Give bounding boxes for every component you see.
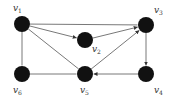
node-v1	[14, 16, 30, 32]
node-v2	[77, 32, 93, 48]
node-label-v3: v3	[154, 5, 163, 16]
node-label-v2: v2	[92, 44, 101, 55]
edge-v2-v3	[93, 27, 138, 38]
node-label-v1: v1	[13, 3, 22, 14]
labels-group: v1v2v3v4v5v6	[13, 3, 163, 96]
edge-v1-v5	[28, 29, 78, 69]
nodes-group	[14, 16, 154, 82]
node-v4	[138, 66, 154, 82]
graph-diagram: v1v2v3v4v5v6	[0, 0, 174, 98]
node-label-v4: v4	[154, 85, 163, 96]
node-v6	[14, 66, 30, 82]
node-v5	[77, 66, 93, 82]
node-label-v6: v6	[13, 85, 22, 96]
edge-v1-v3	[30, 24, 138, 25]
node-v3	[138, 17, 154, 33]
node-label-v5: v5	[80, 85, 89, 96]
